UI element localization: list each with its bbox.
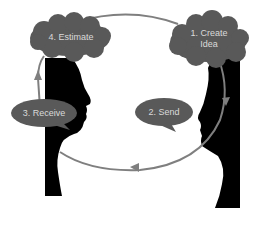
label-send: 2. Send — [136, 107, 192, 118]
label-receive: 3. Receive — [12, 108, 76, 119]
left-profile-silhouette — [45, 58, 91, 196]
right-profile-silhouette — [198, 56, 240, 208]
label-estimate: 4. Estimate — [36, 32, 106, 43]
label-create-idea: 1. Create Idea — [176, 28, 242, 50]
arrow-head-up-icon — [34, 70, 42, 80]
